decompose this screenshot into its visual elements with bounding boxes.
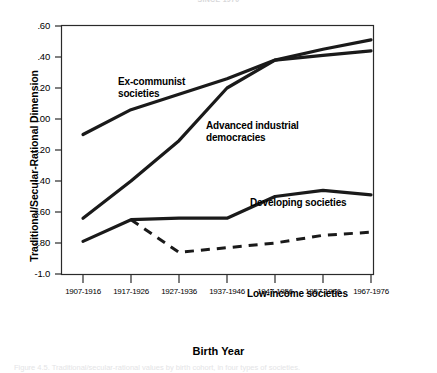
y-tick-label: .00 <box>16 113 50 124</box>
plot-frame <box>62 26 374 275</box>
series-label-developing-societies: Developing societies <box>250 197 346 209</box>
y-tick-label: .20 <box>16 82 50 93</box>
y-tick-label: -1.0 <box>16 268 50 279</box>
figure-container: SINCE 1970 <box>0 0 437 373</box>
chart-plot-area <box>0 0 437 373</box>
series-label-low-income-societies: Low-income societies <box>247 288 348 300</box>
y-tick-label: -.80 <box>16 237 50 248</box>
series-label-advanced-industrial-democracies: Advanced industrial democracies <box>206 120 299 143</box>
y-tick-label: .60 <box>16 20 50 31</box>
x-axis-title: Birth Year <box>0 345 437 357</box>
x-axis-ticks <box>83 275 371 283</box>
y-tick-label: -.60 <box>16 206 50 217</box>
figure-caption: Figure 4.5. Traditional/secular-rational… <box>14 363 426 372</box>
y-tick-label: -.20 <box>16 144 50 155</box>
x-tick-label: 1967-1976 <box>341 287 401 296</box>
y-tick-label: -.40 <box>16 175 50 186</box>
y-tick-label: .40 <box>16 51 50 62</box>
series-label-ex-communist-societies: Ex-communist societies <box>118 76 185 99</box>
